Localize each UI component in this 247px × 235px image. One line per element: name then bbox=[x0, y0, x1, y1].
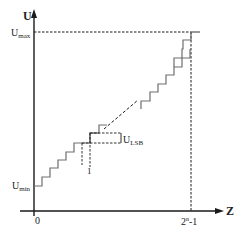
staircase-lower-top bbox=[90, 125, 107, 143]
y-axis bbox=[31, 9, 37, 216]
z-max-label-suffix: -1 bbox=[189, 216, 197, 227]
u-max-label: Umax bbox=[11, 28, 30, 40]
diagram-canvas bbox=[0, 0, 247, 235]
u-lsb-label-sub: LSB bbox=[130, 139, 143, 147]
staircase-lower bbox=[34, 133, 99, 186]
x-axis-arrow-icon bbox=[215, 208, 224, 214]
y-axis-label: U bbox=[23, 10, 32, 22]
origin-label: 0 bbox=[35, 216, 40, 226]
u-min-label: Umin bbox=[12, 181, 30, 193]
x-axis-label: Z bbox=[226, 205, 234, 217]
x-axis bbox=[20, 208, 224, 214]
u-min-label-sub: min bbox=[19, 185, 30, 193]
u-max-label-sub: max bbox=[18, 32, 30, 40]
step-width-label: 1 bbox=[87, 167, 92, 176]
staircase-upper bbox=[141, 49, 190, 109]
staircase-continuation-dashed bbox=[104, 100, 138, 129]
z-max-label: 2n-1 bbox=[181, 216, 197, 227]
u-lsb-label: ULSB bbox=[123, 135, 143, 147]
